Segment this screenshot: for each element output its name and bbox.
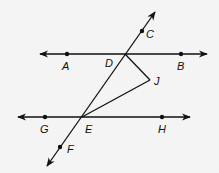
transversal-CF	[47, 12, 155, 166]
point-G	[43, 115, 47, 119]
label-C: C	[146, 28, 154, 40]
label-G: G	[40, 123, 49, 135]
label-A: A	[61, 60, 69, 72]
point-C	[140, 29, 144, 33]
point-A	[65, 52, 69, 56]
label-B: B	[177, 60, 184, 72]
point-H	[160, 115, 164, 119]
geometry-diagram: A B C D J G E H F	[0, 0, 219, 173]
label-D: D	[105, 57, 113, 69]
segment-DJ	[125, 54, 150, 80]
label-F: F	[67, 143, 75, 155]
label-J: J	[153, 75, 160, 87]
segment-EJ	[82, 80, 150, 117]
label-H: H	[158, 123, 166, 135]
label-E: E	[85, 123, 93, 135]
point-B	[179, 52, 183, 56]
point-F	[58, 145, 62, 149]
